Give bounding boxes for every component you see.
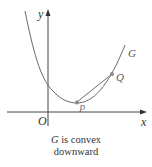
caption-line-2: downward bbox=[0, 146, 152, 158]
curve-label: G bbox=[128, 48, 136, 59]
caption-curve-name: G bbox=[51, 134, 59, 145]
caption-line-1-text: is convex bbox=[59, 134, 102, 145]
origin-label: O bbox=[38, 115, 47, 127]
x-axis-arrow-icon bbox=[140, 110, 147, 115]
chord-pq bbox=[77, 74, 112, 102]
point-q bbox=[110, 72, 114, 76]
y-axis-label: y bbox=[38, 8, 43, 20]
convexity-figure: y O x G Q P G is convex downward bbox=[0, 0, 152, 167]
point-p-label: P bbox=[79, 104, 85, 114]
curve-g bbox=[25, 11, 125, 103]
caption-line-1: G is convex bbox=[0, 134, 152, 146]
y-axis-arrow-icon bbox=[46, 9, 51, 16]
point-q-label: Q bbox=[116, 72, 124, 83]
x-axis-label: x bbox=[141, 116, 146, 128]
figure-caption: G is convex downward bbox=[0, 134, 152, 158]
